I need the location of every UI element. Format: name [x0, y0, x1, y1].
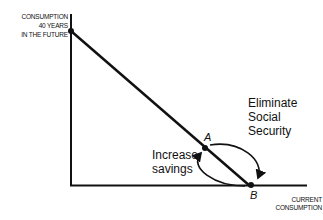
annotation-line: Increase — [152, 148, 198, 162]
point-b — [248, 182, 254, 188]
point-a-label: A — [204, 131, 211, 143]
annotation-line: Eliminate — [248, 96, 297, 110]
y-label-line: IN THE FUTURE — [2, 30, 68, 39]
eliminate-social-security-annotation: Eliminate Social Security — [248, 96, 297, 138]
x-label-line: CONSUMPTION — [262, 204, 322, 212]
increase-savings-annotation: Increase savings — [152, 148, 198, 176]
intercept-point — [68, 28, 74, 34]
y-axis-label: CONSUMPTION 40 YEARS IN THE FUTURE — [2, 12, 68, 39]
y-label-line: 40 YEARS — [2, 21, 68, 30]
y-label-line: CONSUMPTION — [2, 12, 68, 21]
point-b-label: B — [250, 189, 257, 201]
annotation-line: Security — [248, 124, 297, 138]
annotation-line: savings — [152, 162, 198, 176]
x-label-line: CURRENT — [262, 196, 322, 204]
increase-arrow — [198, 153, 245, 186]
x-axis-label: CURRENT CONSUMPTION — [262, 196, 322, 212]
annotation-line: Social — [248, 110, 297, 124]
point-a — [202, 145, 208, 151]
